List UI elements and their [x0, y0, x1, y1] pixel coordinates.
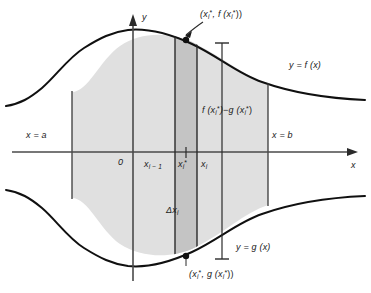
bottom-point-mid: , g (x: [202, 269, 223, 279]
right-boundary-label-b: x = b: [272, 131, 293, 140]
height-label-prefix: f (x: [202, 105, 215, 115]
origin-label: 0: [118, 158, 123, 167]
height-label-suffix: ): [249, 105, 252, 115]
tick-x-i-base: x: [201, 159, 206, 169]
height-label-sup1: *: [217, 105, 220, 112]
tick-x-i-sub: i: [206, 163, 208, 170]
left-boundary-label-a: x = a: [26, 131, 47, 140]
figure-canvas: [0, 0, 371, 293]
width-label-sub1: i: [177, 209, 179, 216]
upper-curve-point-dot: [183, 37, 189, 43]
height-difference-label: f (xi*)−g (xi*): [202, 106, 252, 115]
upper-curve-label-f: y = f (x): [289, 61, 321, 70]
tick-label-x-i: xi: [201, 160, 207, 169]
shaded-region-between-curves: [72, 35, 268, 255]
top-point-mid: , f (x: [213, 9, 232, 19]
lower-curve-label-g: y = g (x): [236, 243, 271, 252]
tick-label-x-i-star: xi*: [178, 160, 187, 169]
tick-x-i-minus-1-sub: i − 1: [149, 163, 162, 170]
area-between-curves-figure: y x 0 x = a x = b y = f (x) y = g (x) xi…: [0, 0, 371, 293]
top-point-sup1: *: [210, 9, 213, 16]
x-axis-arrowhead: [347, 148, 358, 156]
y-axis-arrowhead: [129, 14, 137, 26]
bottom-point-sup1: *: [199, 269, 202, 276]
height-label-sup2: *: [246, 105, 249, 112]
tick-x-i-star-sup: *: [184, 159, 187, 166]
top-point-sup2: *: [233, 9, 236, 16]
bottom-point-suffix: )): [227, 269, 233, 279]
top-point-annotation: (xi*, f (xi*)): [200, 10, 242, 19]
x-axis-label: x: [351, 161, 356, 170]
height-label-mid: )−g (x: [220, 105, 244, 115]
bottom-point-annotation: (xi*, g (xi*)): [189, 270, 234, 279]
tick-x-i-star-base: x: [178, 159, 183, 169]
tick-label-x-i-minus-1: xi − 1: [144, 160, 162, 169]
width-label-prefix: Δx: [166, 205, 177, 215]
tick-x-i-minus-1-base: x: [144, 159, 149, 169]
bottom-point-prefix: (x: [189, 269, 197, 279]
top-point-leader-line: [186, 22, 203, 35]
bottom-point-sup2: *: [224, 269, 227, 276]
lower-curve-point-dot: [183, 253, 189, 259]
top-point-prefix: (x: [200, 9, 208, 19]
strip-width-label: Δxi: [166, 206, 179, 215]
y-axis-label: y: [142, 13, 147, 22]
top-point-suffix: )): [236, 9, 242, 19]
